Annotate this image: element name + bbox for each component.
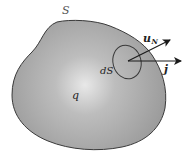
current-vector-label: j: [164, 64, 168, 75]
diagram-graphics: [0, 0, 192, 158]
gauss-surface-diagram: S uN j dS q: [0, 0, 192, 158]
normal-vector-subscript: N: [152, 37, 158, 46]
normal-vector-symbol: u: [143, 32, 151, 45]
normal-vector-label: uN: [143, 33, 158, 45]
surface-label: S: [62, 5, 70, 16]
area-element-label: dS: [100, 66, 113, 76]
charge-label: q: [72, 90, 79, 101]
